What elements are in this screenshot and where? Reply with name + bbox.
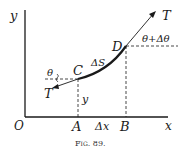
theta-plus-delta-theta-label: θ+Δθ	[142, 33, 170, 44]
delta-x-label: Δx	[94, 120, 110, 133]
point-A-label: A	[71, 119, 81, 134]
delta-s-label: ΔS	[90, 57, 105, 68]
figure-caption: Fig. 89.	[75, 139, 106, 148]
origin-label: O	[14, 119, 24, 133]
y-height-label: y	[81, 93, 89, 106]
x-axis-label: x	[165, 119, 172, 133]
tension-top-label: T	[162, 8, 172, 23]
arrowhead-bottom-icon	[52, 84, 59, 89]
tension-vector-bottom	[55, 79, 78, 87]
tension-bottom-label: T	[44, 86, 54, 101]
arrowhead-top-icon	[149, 11, 156, 18]
point-B-label: B	[119, 119, 130, 134]
point-C-label: C	[73, 63, 83, 78]
catenary-diagram: y x O A B Δx C D ΔS y θ θ+Δθ T T Fig. 89…	[0, 0, 187, 154]
point-D-label: D	[111, 39, 123, 54]
theta-label: θ	[47, 67, 53, 78]
y-axis-label: y	[9, 8, 18, 23]
theta-angle-arc	[56, 74, 58, 82]
